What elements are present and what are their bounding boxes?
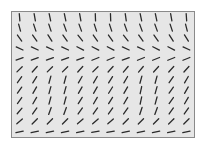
orientation-segment	[168, 57, 175, 60]
orientation-segment	[138, 47, 145, 50]
orientation-segment	[49, 24, 51, 31]
orientation-segment	[33, 108, 37, 114]
orientation-segment	[17, 77, 21, 83]
orientation-segment	[78, 108, 82, 114]
orientation-segment	[64, 76, 66, 83]
orientation-segment	[168, 131, 175, 133]
orientation-segment	[109, 77, 113, 83]
orientation-segment	[169, 119, 174, 124]
orientation-segment	[33, 97, 37, 103]
orientation-segment	[155, 24, 158, 31]
orientation-segment	[17, 98, 21, 104]
orientation-segment	[140, 76, 142, 83]
orientation-segment	[185, 97, 189, 103]
orientation-segment	[138, 119, 143, 124]
orientation-segment	[49, 87, 51, 94]
orientation-segment	[17, 108, 22, 114]
orientation-segment	[124, 97, 128, 103]
orientation-segment	[49, 76, 51, 83]
orientation-segment	[64, 107, 67, 114]
orientation-segment	[92, 47, 99, 50]
orientation-segment	[46, 131, 53, 133]
orientation-segment	[46, 58, 53, 61]
orientation-segment	[137, 57, 144, 60]
orientation-segment	[16, 47, 23, 50]
orientation-segment	[47, 67, 52, 72]
orientation-segment	[80, 14, 81, 21]
orientation-segment	[78, 67, 83, 72]
orientation-segment	[171, 14, 172, 21]
orientation-segment	[185, 77, 189, 83]
orientation-segment	[169, 77, 173, 83]
orientation-segment	[93, 67, 98, 72]
orientation-segment	[77, 131, 84, 133]
orientation-segment	[94, 77, 98, 83]
orientation-segment	[61, 131, 68, 133]
orientation-segment	[62, 47, 69, 50]
orientation-segment	[184, 108, 188, 114]
orientation-segment	[124, 87, 128, 93]
orientation-segment	[140, 14, 142, 21]
orientation-segment	[62, 67, 67, 72]
orientation-segment	[78, 97, 82, 103]
orientation-segment	[107, 57, 114, 60]
orientation-segment	[108, 108, 112, 114]
orientation-segment	[64, 24, 67, 31]
orientation-segment	[33, 87, 37, 93]
orientation-segment	[185, 87, 189, 93]
orientation-segment	[77, 58, 84, 61]
orientation-segment	[154, 35, 158, 41]
orientation-segment	[32, 119, 37, 124]
orientation-segment	[139, 66, 144, 72]
orientation-segment	[152, 131, 159, 133]
orientation-segment	[17, 119, 23, 124]
orientation-segment	[170, 24, 172, 31]
orientation-segment	[93, 119, 99, 124]
orientation-segment	[49, 14, 51, 21]
orientation-segment	[63, 35, 67, 41]
orientation-segment	[17, 87, 21, 93]
orientation-segment	[155, 14, 157, 21]
orientation-segment	[47, 47, 54, 50]
orientation-segment	[184, 67, 189, 72]
orientation-segment	[123, 119, 128, 124]
orientation-segment	[77, 47, 84, 50]
orientation-segment	[92, 57, 99, 60]
orientation-segment	[122, 58, 129, 61]
orientation-segment	[122, 131, 129, 133]
orientation-segment	[123, 66, 128, 72]
orientation-segment	[169, 35, 173, 41]
orientation-segment	[94, 97, 98, 103]
orientation-segment	[17, 67, 22, 72]
orientation-segment	[153, 119, 158, 124]
orientation-segment	[93, 108, 97, 114]
orientation-segment	[124, 24, 127, 31]
orientation-segment	[155, 97, 157, 104]
orientation-segment	[183, 131, 190, 133]
orientation-segment	[16, 58, 23, 61]
texture-field-frame	[11, 11, 195, 138]
orientation-segment	[78, 87, 82, 93]
orientation-segment	[48, 35, 52, 41]
orientation-segment	[32, 67, 37, 72]
orientation-segment	[169, 98, 173, 104]
orientation-segment	[153, 47, 160, 50]
orientation-segment	[140, 97, 142, 104]
orientation-segment	[64, 14, 66, 21]
orientation-segment	[92, 131, 99, 132]
orientation-segment	[19, 24, 21, 31]
orientation-segment	[168, 47, 175, 50]
orientation-segment	[77, 119, 83, 124]
orientation-segment	[108, 67, 113, 72]
orientation-segment	[140, 24, 143, 31]
orientation-segment	[62, 58, 69, 61]
orientation-segment	[109, 97, 113, 103]
orientation-segment	[124, 108, 128, 114]
orientation-segment	[93, 35, 97, 41]
orientation-segment	[78, 77, 82, 83]
orientation-segment	[184, 35, 188, 41]
orientation-segment	[109, 24, 111, 31]
orientation-segment	[169, 87, 173, 93]
orientation-segment	[33, 35, 37, 41]
orientation-segment	[123, 35, 128, 41]
